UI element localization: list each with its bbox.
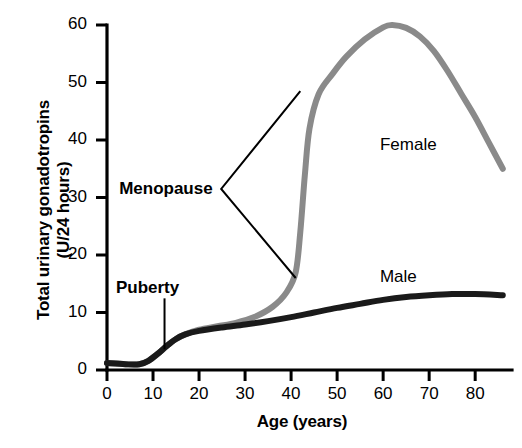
y-tick-label: 20 <box>53 244 87 264</box>
x-tick-label: 80 <box>457 384 493 404</box>
x-tick-label: 50 <box>319 384 355 404</box>
y-tick-label: 30 <box>53 187 87 207</box>
series-label-female: Female <box>380 135 437 155</box>
chart-plot-area <box>0 0 522 448</box>
x-tick-label: 70 <box>411 384 447 404</box>
y-tick-label: 0 <box>53 359 87 379</box>
y-tick-label: 10 <box>53 302 87 322</box>
y-tick-label: 50 <box>53 72 87 92</box>
x-tick-label: 60 <box>365 384 401 404</box>
series-label-male: Male <box>380 267 417 287</box>
y-tick-label: 40 <box>53 129 87 149</box>
x-tick-label: 0 <box>89 384 125 404</box>
x-tick-label: 30 <box>227 384 263 404</box>
x-tick-marks <box>107 370 475 381</box>
x-tick-label: 10 <box>135 384 171 404</box>
y-tick-label: 60 <box>53 14 87 34</box>
y-axis-title-line1: Total urinary gonadotropins <box>34 40 54 380</box>
y-tick-marks <box>96 25 107 370</box>
x-axis-title: Age (years) <box>107 412 497 432</box>
x-tick-label: 40 <box>273 384 309 404</box>
x-tick-label: 20 <box>181 384 217 404</box>
series-line-male <box>107 294 503 365</box>
gonadotropins-age-chart: Total urinary gonadotropins (U/24 hours)… <box>0 0 522 448</box>
annotation-bracket <box>221 91 300 278</box>
annotation-label-menopause: Menopause <box>119 179 213 199</box>
annotation-leaders <box>165 91 301 349</box>
annotation-label-puberty: Puberty <box>116 278 179 298</box>
